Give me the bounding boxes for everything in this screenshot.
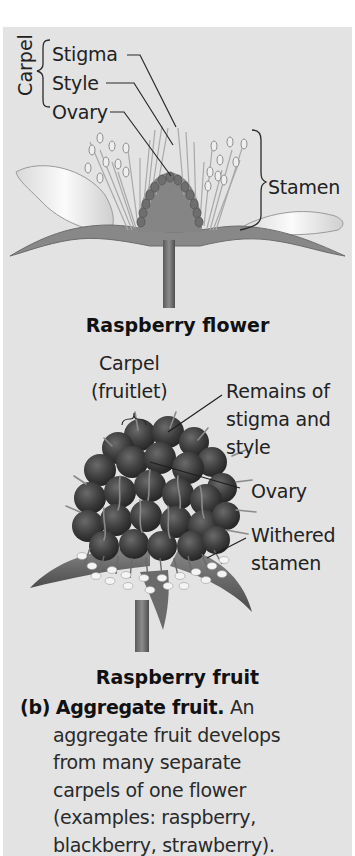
- caption-line: blackberry, strawberry).: [20, 832, 350, 856]
- caption-first-line-rest: An: [224, 696, 254, 718]
- caption-heading: Aggregate fruit.: [56, 696, 224, 718]
- remains-label-line1: Remains of: [226, 380, 330, 402]
- caption-line: (examples: raspberry,: [20, 804, 350, 832]
- figure-caption: (b) Aggregate fruit. An aggregate fruit …: [20, 694, 350, 856]
- caption-line: aggregate fruit develops: [20, 722, 350, 750]
- carpel-group-label: Carpel: [14, 34, 36, 96]
- remains-label-line2: stigma and: [226, 408, 331, 430]
- fruit-title: Raspberry fruit: [0, 666, 355, 688]
- withered-label-line2: stamen: [251, 552, 321, 574]
- fruit-fruitlet-label: (fruitlet): [91, 380, 168, 402]
- remains-label-line3: style: [226, 436, 271, 458]
- ovary-label: Ovary: [52, 101, 108, 123]
- caption-first-line: (b) Aggregate fruit. An: [20, 694, 350, 722]
- stigma-label: Stigma: [52, 43, 118, 65]
- flower-title: Raspberry flower: [0, 314, 355, 336]
- style-label: Style: [52, 72, 99, 94]
- fruit-carpel-label: Carpel: [99, 352, 160, 374]
- caption-line: from many separate: [20, 749, 350, 777]
- fruit-ovary-label: Ovary: [251, 480, 307, 502]
- caption-line: carpels of one flower: [20, 777, 350, 805]
- fruit-drawing: [30, 395, 256, 652]
- withered-label-line1: Withered: [251, 524, 335, 546]
- stamen-label: Stamen: [268, 176, 340, 198]
- caption-tag: (b): [20, 696, 50, 718]
